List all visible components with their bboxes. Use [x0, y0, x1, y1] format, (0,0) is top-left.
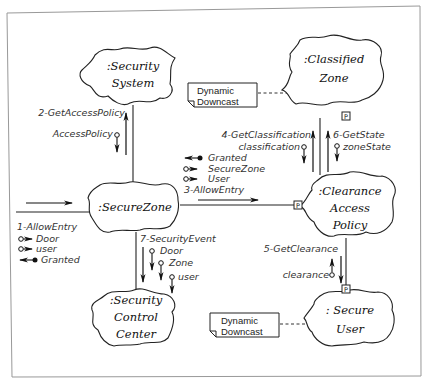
- message-label: 6-GetState: [333, 129, 385, 140]
- data-token-open-icon: [19, 247, 24, 252]
- port-label: P: [296, 202, 300, 210]
- object-label-line2: Zone: [318, 71, 348, 85]
- object-label-line1: :Clearance: [318, 184, 381, 198]
- message-label: 3-AllowEntry: [184, 184, 244, 195]
- data-token-open-icon: [335, 144, 340, 149]
- object-security-system[interactable]: :Security System: [80, 47, 175, 104]
- data-token-open-icon: [19, 237, 24, 242]
- object-label-line1: : Secure: [326, 303, 375, 317]
- object-label-line1: :Security: [107, 59, 160, 73]
- data-token-open-icon: [184, 167, 189, 172]
- object-label-line3: Policy: [332, 218, 368, 232]
- note-dynamic-downcast-classified[interactable]: Dynamic Downcast: [188, 83, 257, 107]
- data-token-filled-icon: [198, 156, 203, 161]
- param-in-user: user: [19, 243, 58, 254]
- return-label: clearance: [283, 269, 330, 280]
- object-secure-zone[interactable]: :SecureZone: [88, 182, 179, 233]
- object-label-line2: Control: [114, 310, 158, 324]
- message-3-allow-entry: Granted SecureZone User 3-AllowEntry: [184, 152, 266, 200]
- collaboration-diagram: :Security System :Classified Zone P :Sec…: [0, 0, 428, 383]
- param-label: user: [178, 271, 200, 282]
- note-text-line2: Downcast: [197, 96, 239, 107]
- param-out-granted: Granted: [185, 152, 248, 163]
- data-token-open-icon: [150, 249, 155, 254]
- message-label: 5-GetClearance: [264, 243, 338, 254]
- message-label: 4-GetClassification: [222, 129, 311, 140]
- param-label: User: [208, 173, 231, 184]
- data-token-open-icon: [330, 273, 335, 278]
- object-label-line1: :SecureZone: [98, 200, 172, 214]
- data-token-filled-icon: [33, 258, 38, 263]
- param-in-user: User: [184, 173, 231, 184]
- message-5-get-clearance: 5-GetClearance clearance: [264, 243, 341, 283]
- object-classified-zone[interactable]: :Classified Zone P: [282, 35, 384, 121]
- return-label: classification: [238, 141, 300, 152]
- param-label: Granted: [41, 254, 81, 265]
- message-6-get-state: 6-GetState zoneState: [328, 129, 391, 172]
- message-label: 2-GetAccessPolicy: [38, 107, 125, 118]
- return-label: zoneState: [342, 141, 391, 152]
- note-text-line1: Dynamic: [221, 315, 258, 326]
- param-label: user: [36, 243, 58, 254]
- param-label: Granted: [208, 152, 248, 163]
- object-clearance-access-policy[interactable]: :Clearance Access Policy P: [294, 172, 395, 237]
- message-2-get-access-policy: 2-GetAccessPolicy AccessPolicy: [38, 107, 126, 155]
- object-label-line2: Access: [329, 201, 370, 215]
- object-label-line3: Center: [116, 327, 157, 341]
- message-7-security-event: 7-SecurityEvent Door Zone user: [140, 233, 217, 293]
- return-label: AccessPolicy: [52, 128, 114, 139]
- port-label: P: [344, 113, 348, 121]
- object-label-line2: System: [112, 76, 155, 90]
- object-label-line2: User: [336, 322, 365, 336]
- note-text-line1: Dynamic: [197, 85, 234, 96]
- param-out-granted: Granted: [20, 254, 81, 265]
- message-label: 1-AllowEntry: [17, 221, 77, 232]
- object-label-line1: :Classified: [304, 52, 365, 66]
- param-label: Door: [160, 245, 184, 256]
- note-dynamic-downcast-secureuser[interactable]: Dynamic Downcast: [210, 313, 279, 337]
- port-label: P: [344, 286, 348, 294]
- object-secure-user[interactable]: : Secure User P: [304, 285, 394, 346]
- data-token-open-icon: [302, 145, 307, 150]
- note-text-line2: Downcast: [221, 326, 263, 337]
- param-in-user: user: [170, 271, 200, 293]
- data-token-open-icon: [115, 133, 120, 138]
- message-label: 7-SecurityEvent: [140, 233, 217, 244]
- param-label: Zone: [168, 257, 193, 268]
- data-token-open-icon: [159, 261, 164, 266]
- data-token-open-icon: [170, 275, 175, 280]
- object-security-control-center[interactable]: :Security Control Center: [92, 289, 175, 346]
- object-label-line1: :Security: [110, 293, 163, 307]
- data-token-open-icon: [184, 177, 189, 182]
